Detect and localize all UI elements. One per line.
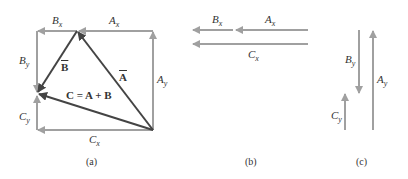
caption-a: (a)	[86, 157, 97, 167]
label-ax-a: Ax	[109, 15, 119, 29]
label-cy-a: Cy	[19, 111, 30, 125]
label-ay-c: Ay	[377, 74, 387, 88]
panel-b	[193, 30, 308, 44]
label-bx-b: Bx	[212, 14, 222, 28]
caption-c: (c)	[356, 157, 367, 167]
label-cx-b: Cx	[248, 49, 259, 63]
label-vector-b: B	[61, 62, 68, 73]
label-vector-a: A	[119, 72, 127, 83]
label-cx-a: Cx	[89, 134, 100, 148]
vector-b-arrow	[38, 31, 77, 92]
label-by-a: By	[19, 55, 29, 69]
vector-a-arrow	[78, 32, 153, 130]
label-c-equals-a-plus-b: C = A + B	[66, 90, 112, 101]
panel-a	[37, 31, 153, 130]
label-cy-c: Cy	[331, 110, 342, 124]
panel-c	[345, 30, 373, 130]
label-by-c: By	[345, 54, 355, 68]
label-ay-a: Ay	[157, 74, 167, 88]
caption-b: (b)	[245, 157, 257, 167]
label-ax-b: Ax	[265, 14, 275, 28]
label-bx-a: Bx	[52, 15, 62, 29]
